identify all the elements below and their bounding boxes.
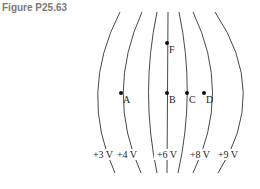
point-d-label: D xyxy=(206,94,213,105)
voltage-label: +4 V xyxy=(117,149,138,160)
equipotential-diagram: +3 V+4 V+6 V+8 V+9 V ABCDF xyxy=(0,0,260,189)
voltage-label: +8 V xyxy=(190,149,211,160)
points: ABCDF xyxy=(119,41,213,105)
point-c-label: C xyxy=(189,94,196,105)
point-f-label: F xyxy=(169,44,175,55)
equipotential-line-5v xyxy=(149,12,158,173)
point-b-label: B xyxy=(169,94,176,105)
voltage-label: +3 V xyxy=(93,149,114,160)
voltage-label: +9 V xyxy=(218,149,239,160)
voltage-labels: +3 V+4 V+6 V+8 V+9 V xyxy=(90,149,241,160)
voltage-label: +6 V xyxy=(157,149,178,160)
point-a-label: A xyxy=(123,94,131,105)
